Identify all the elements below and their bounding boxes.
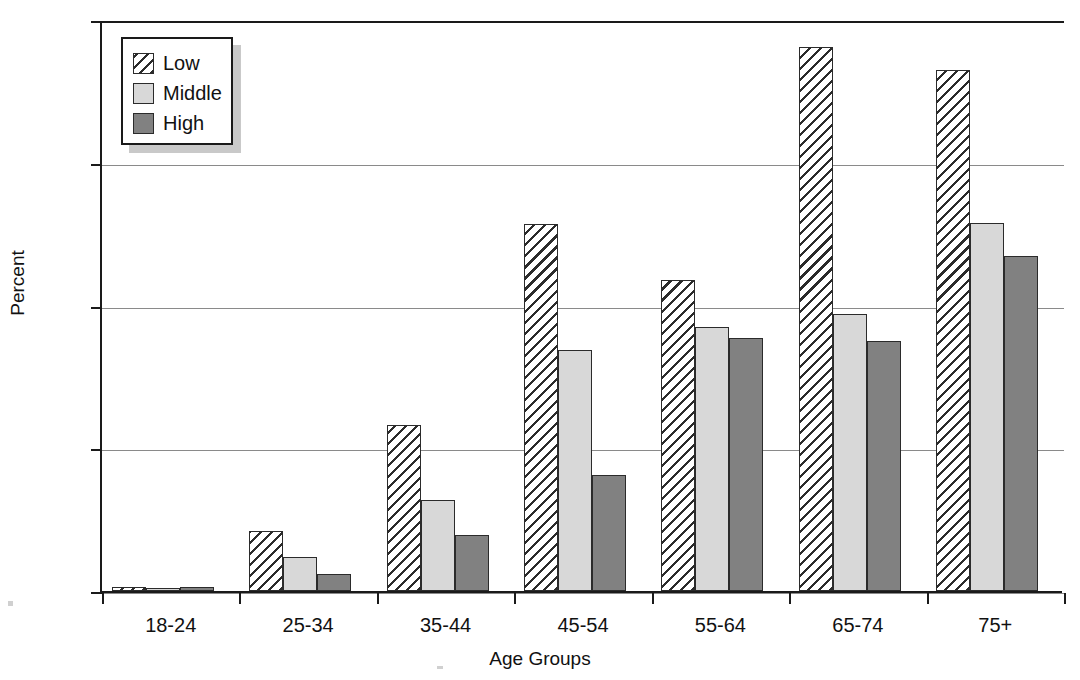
bar-35-44-low <box>387 425 421 591</box>
legend-swatch-high-icon <box>133 113 154 134</box>
x-axis-title: Age Groups <box>0 648 1080 670</box>
bar-25-34-low <box>249 531 283 591</box>
plot-area: 01020304018-2425-3435-4445-5455-6465-747… <box>100 22 1062 593</box>
bar-65-74-low <box>799 47 833 591</box>
x-tick-mark <box>1064 593 1066 604</box>
legend-label-low: Low <box>163 52 200 75</box>
scan-speck <box>8 601 13 606</box>
legend-item-high: High <box>133 108 231 138</box>
bar-65-74-middle <box>833 314 867 591</box>
y-tick-mark <box>91 449 102 451</box>
y-tick-mark <box>91 21 102 23</box>
bar-18-24-low <box>112 587 146 591</box>
x-tick-mark <box>927 593 929 604</box>
gridline-0 <box>102 593 1064 594</box>
bar-25-34-high <box>317 574 351 591</box>
gridline-30 <box>102 165 1064 166</box>
bar-55-64-high <box>729 338 763 591</box>
legend-item-low: Low <box>133 48 231 78</box>
y-tick-mark <box>91 307 102 309</box>
scan-speck <box>437 666 443 669</box>
legend-swatch-low-icon <box>133 53 154 74</box>
bar-35-44-high <box>455 535 489 591</box>
x-tick-label-25-34: 25-34 <box>228 614 388 637</box>
x-tick-mark <box>789 593 791 604</box>
bar-chart: Percent 01020304018-2425-3435-4445-5455-… <box>0 0 1080 680</box>
bar-45-54-middle <box>558 350 592 591</box>
y-axis-title: Percent <box>7 3 29 563</box>
x-tick-label-18-24: 18-24 <box>91 614 251 637</box>
x-tick-label-55-64: 55-64 <box>640 614 800 637</box>
x-tick-mark <box>652 593 654 604</box>
y-tick-mark <box>91 164 102 166</box>
bar-18-24-middle <box>146 588 180 591</box>
y-tick-mark <box>91 592 102 594</box>
legend-swatch-middle-icon <box>133 83 154 104</box>
x-tick-mark <box>102 593 104 604</box>
bar-45-54-low <box>524 224 558 591</box>
x-tick-mark <box>377 593 379 604</box>
x-tick-label-65-74: 65-74 <box>778 614 938 637</box>
bar-45-54-high <box>592 475 626 591</box>
bar-65-74-high <box>867 341 901 591</box>
bar-55-64-middle <box>695 327 729 591</box>
bar-75+-middle <box>970 223 1004 591</box>
bar-35-44-middle <box>421 500 455 591</box>
x-tick-label-45-54: 45-54 <box>503 614 663 637</box>
legend: Low Middle High <box>121 37 233 145</box>
x-tick-label-35-44: 35-44 <box>366 614 526 637</box>
bar-25-34-middle <box>283 557 317 591</box>
bar-18-24-high <box>180 587 214 591</box>
legend-item-middle: Middle <box>133 78 231 108</box>
x-tick-label-75+: 75+ <box>915 614 1075 637</box>
x-tick-mark <box>239 593 241 604</box>
legend-label-middle: Middle <box>163 82 222 105</box>
bar-55-64-low <box>661 280 695 591</box>
gridline-40 <box>102 21 1064 23</box>
legend-label-high: High <box>163 112 204 135</box>
bar-75+-low <box>936 70 970 591</box>
x-tick-mark <box>514 593 516 604</box>
gridline-20 <box>102 308 1064 309</box>
bar-75+-high <box>1004 256 1038 591</box>
